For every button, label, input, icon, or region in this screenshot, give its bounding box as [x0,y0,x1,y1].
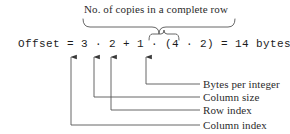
callout-line-column-size [94,57,200,97]
callout-label-column-size: Column size [203,91,259,103]
callout-line-row-index [111,57,200,110]
offset-equation: Offset = 3 · 2 + 1 · (4 · 2) = 14 bytes [18,38,290,50]
callout-label-row-index: Row index [203,104,252,116]
complete-row-brace-icon [83,19,235,34]
callout-label-column-index: Column index [203,119,267,131]
callout-line-column-index [71,57,200,125]
callout-line-bytes-per-integer [146,57,200,84]
complete-row-caption: No. of copies in a complete row [84,3,228,15]
callout-label-bytes-per-integer: Bytes per integer [203,78,280,90]
offset-formula-diagram: No. of copies in a complete row Offset =… [0,0,290,134]
